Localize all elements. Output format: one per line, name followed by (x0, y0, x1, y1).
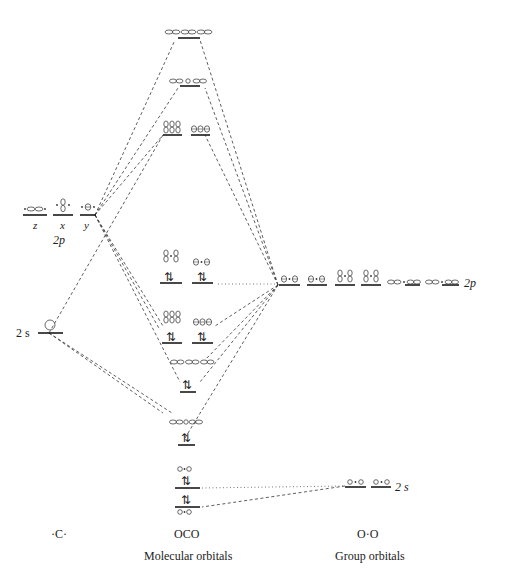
mo-diagram: z x y 2p 2 s (0, 0, 505, 579)
label-o-2s: 2 s (395, 480, 409, 494)
orbital-sketch-2s-combo (178, 467, 192, 472)
label-x: x (59, 219, 65, 231)
electron-pair: ⇅ (197, 330, 207, 344)
group-orbital-sketches (281, 270, 458, 284)
orbital-sketch-sigma-star-top (165, 30, 212, 34)
label-c-2p: 2p (53, 233, 65, 247)
molecular-orbitals-caption: Molecular orbitals (144, 549, 232, 564)
orbital-sketch-sigma-bonding-1 (171, 360, 215, 364)
electron-pair: ⇅ (197, 270, 207, 284)
label-o-2p: 2p (464, 276, 476, 290)
orbital-sketch-pi-bonding (164, 311, 212, 325)
electron-pair: ⇅ (181, 493, 191, 507)
electron-pair: ⇅ (182, 378, 192, 392)
orbital-sketch-2s-combo-lower (178, 510, 192, 515)
electron-pair: ⇅ (166, 330, 176, 344)
orbital-sketch-sigma-star-2 (170, 79, 207, 83)
label-z: z (32, 219, 38, 231)
orbital-sketch-sigma-bonding-2 (170, 420, 203, 424)
label-c-2s: 2 s (16, 326, 30, 340)
orbital-sketch-pi-star (164, 121, 210, 133)
label-y: y (83, 219, 89, 231)
carbon-label: ·C· (51, 527, 67, 542)
carbon-2s-level: 2 s (16, 320, 63, 340)
nonbonding-lines (202, 284, 345, 488)
group-2p-levels: 2p (279, 270, 476, 290)
oco-label: OCO (174, 527, 199, 542)
group-2s-levels: 2 s (345, 480, 409, 494)
electron-pair: ⇅ (164, 270, 174, 284)
carbon-2p-levels: z x y 2p (23, 199, 96, 247)
electron-pair: ⇅ (181, 474, 191, 488)
orbital-sketch-pi-nonbonding (164, 250, 210, 265)
oo-label: O·O (357, 527, 378, 542)
electron-pair: ⇅ (181, 431, 191, 445)
group-orbitals-caption: Group orbitals (335, 549, 405, 564)
